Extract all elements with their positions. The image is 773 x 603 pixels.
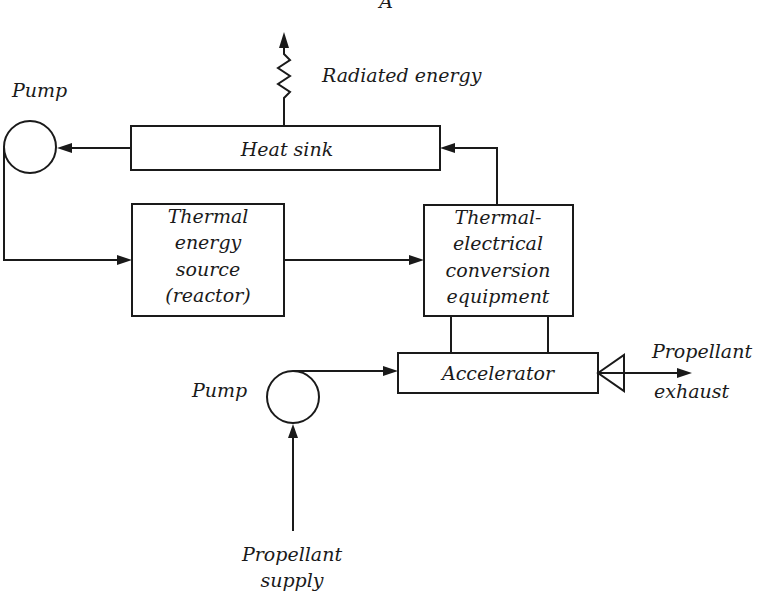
svg-text:electrical: electrical [453,232,543,254]
arrowhead-to-source [117,255,132,265]
svg-text:energy: energy [175,231,242,253]
heat-sink-node: Heat sink [131,126,440,170]
conversion-node: Thermal- electrical conversion equipment [424,205,573,316]
propellant-supply-label-1: Propellant [241,543,342,565]
svg-text:Thermal: Thermal [168,205,249,227]
propellant-supply-label-2: supply [260,569,323,591]
propellant-exhaust-label-2: exhaust [654,380,730,402]
accelerator-node: Accelerator [398,353,598,393]
arrowhead-to-pump-bottom [288,424,298,438]
svg-text:conversion: conversion [446,259,551,281]
accelerator-label: Accelerator [440,362,556,384]
pump-bottom-label: Pump [191,379,247,401]
propellant-exhaust-label-1: Propellant [651,340,752,362]
arrowhead-to-accelerator [383,366,398,376]
arrowhead-to-pump [57,143,72,153]
arrowhead-to-conversion [409,255,424,265]
thermal-source-node: Thermal energy source (reactor) [132,204,284,316]
pump-bottom-circle [267,371,319,423]
svg-text:source: source [176,258,240,280]
svg-text:Thermal-: Thermal- [454,206,541,228]
svg-text:(reactor): (reactor) [165,284,250,306]
diagram-canvas: A Radiated energy Pump Heat sink Thermal… [0,0,773,603]
pump-top-circle [4,121,56,173]
pump-top-label: Pump [11,79,67,101]
arrowhead-to-heat-sink [440,143,455,153]
radiated-energy-label: Radiated energy [321,64,482,86]
svg-text:equipment: equipment [446,285,549,307]
heat-sink-label: Heat sink [240,138,333,160]
figure-label: A [377,0,393,12]
radiated-energy-arrow [278,32,290,125]
